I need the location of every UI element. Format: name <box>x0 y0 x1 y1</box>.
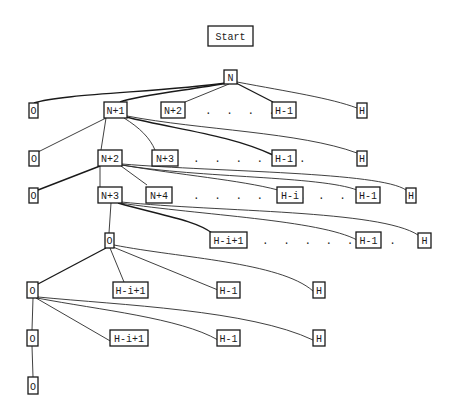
edge-n1-to-h1 <box>126 117 273 155</box>
node-r1-o: O <box>29 103 38 118</box>
node-label: H <box>421 236 427 247</box>
node-start: Start <box>208 26 253 46</box>
ellipses: . . . . . . . . . . . . . . . . . . . . … <box>193 105 400 247</box>
edge-n2-to-h1 <box>122 165 357 190</box>
node-r1-h-minus-1: H-1 <box>272 102 296 118</box>
node-r4-h: H <box>418 233 431 248</box>
edge-n1-to-h <box>127 116 357 153</box>
edge-o4-to-hi1 <box>110 248 124 282</box>
node-label: N+2 <box>164 106 182 117</box>
node-r1-h: H <box>357 103 367 118</box>
node-label: H-1 <box>359 191 377 202</box>
edge-n2-to-h <box>122 164 406 190</box>
edge-n-to-n1 <box>120 83 227 102</box>
ellipsis-row1: . . . . <box>205 105 279 117</box>
node-label: N+3 <box>156 154 174 165</box>
edge-n2-to-n4 <box>121 166 147 185</box>
node-label: O <box>30 191 36 202</box>
node-label: O <box>29 286 35 297</box>
edge-n2-to-o <box>38 166 100 190</box>
node-r1-n-plus-1: N+1 <box>104 102 127 118</box>
edge-o6-to-o7 <box>32 346 33 377</box>
node-r6-o: O <box>27 330 38 346</box>
node-label: H-i+1 <box>115 286 145 297</box>
node-r6-h: H <box>313 330 325 346</box>
node-label: N+3 <box>101 191 119 202</box>
node-label: H <box>316 286 322 297</box>
node-r3-h-minus-i: H-i <box>277 187 303 203</box>
node-label: H-i+1 <box>213 236 243 247</box>
edge-n1-to-n2 <box>101 118 106 150</box>
node-label: H-i <box>281 191 299 202</box>
node-r6-h-minus-i-plus-1: H-i+1 <box>110 330 148 346</box>
node-label: O <box>30 382 36 393</box>
edge-o5-to-h <box>38 297 313 340</box>
node-r3-h: H <box>406 188 416 203</box>
node-r3-o: O <box>29 188 38 203</box>
node-n: N <box>224 70 237 84</box>
edge-o5-to-o6 <box>32 298 33 330</box>
node-label: O <box>30 106 36 117</box>
node-r3-n-plus-3: N+3 <box>98 187 122 203</box>
node-n-label: N <box>227 73 233 84</box>
node-r2-h-minus-1: H-1 <box>272 150 296 166</box>
node-r4-h-minus-i-plus-1: H-i+1 <box>210 232 247 248</box>
node-r3-h-minus-1: H-1 <box>356 187 380 203</box>
node-label: O <box>31 154 37 165</box>
node-r2-h: H <box>357 151 367 166</box>
node-r2-n-plus-3: N+3 <box>152 150 178 166</box>
node-r7-o: O <box>28 377 38 394</box>
node-label: O <box>29 334 35 345</box>
edge-n-to-h1 <box>236 83 273 102</box>
node-label: O <box>106 236 112 247</box>
node-r6-h-minus-1: H-1 <box>217 330 240 346</box>
node-label: H-1 <box>219 286 237 297</box>
node-r5-o: O <box>27 282 38 298</box>
node-label: H-1 <box>275 154 293 165</box>
node-label: N+4 <box>150 191 168 202</box>
node-label: H <box>408 191 414 202</box>
node-r2-n-plus-2: N+2 <box>98 150 122 166</box>
node-label: H <box>316 334 322 345</box>
node-r5-h-minus-1: H-1 <box>217 282 240 298</box>
node-label: H-1 <box>359 236 377 247</box>
node-r5-h-minus-i-plus-1: H-i+1 <box>113 282 148 298</box>
node-r3-n-plus-4: N+4 <box>146 187 172 203</box>
node-label: H-1 <box>275 106 293 117</box>
node-label: H-i+1 <box>114 334 144 345</box>
search-tree-diagram: . . . . . . . . . . . . . . . . . . . . … <box>0 0 456 420</box>
edge-n3-to-o <box>109 203 111 233</box>
node-start-label: Start <box>215 32 245 43</box>
node-r1-n-plus-2: N+2 <box>161 102 185 118</box>
edge-n1-to-o <box>38 118 106 152</box>
node-r2-o: O <box>29 151 39 166</box>
node-r4-o: O <box>105 233 114 248</box>
node-r4-h-minus-1: H-1 <box>356 232 381 248</box>
edge-o4-to-o5 <box>38 248 106 284</box>
node-label: H <box>359 106 365 117</box>
node-label: N+1 <box>106 106 124 117</box>
node-r5-h: H <box>313 282 325 298</box>
node-label: N+2 <box>101 154 119 165</box>
edge-n3-to-h <box>121 202 418 235</box>
node-label: H <box>359 154 365 165</box>
node-label: H-1 <box>219 334 237 345</box>
nodes: Start N O N+1 N+2 H-1 H O <box>27 26 431 394</box>
